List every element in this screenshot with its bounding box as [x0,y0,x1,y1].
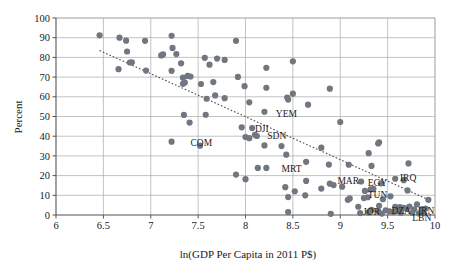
y-tick-label: 20 [40,170,51,181]
x-tick-label: 6.5 [97,220,110,231]
data-point [246,99,252,105]
data-point [278,143,284,149]
data-point [290,91,296,97]
data-point [96,32,102,38]
x-tick-label: 7.5 [192,220,205,231]
data-point [204,96,210,102]
data-point [255,165,261,171]
x-tick-label: 10 [430,220,441,231]
point-label: MRT [282,164,302,174]
data-point [263,65,269,71]
y-axis-title: Percent [12,101,24,134]
data-point [337,119,343,125]
y-tick-label: 40 [40,131,51,142]
point-label: DZA [391,206,411,216]
point-label: IRQ [400,173,417,183]
data-point [327,86,333,92]
point-labels: YEMDJISDNCOMMRTMAREGYIRQTUNJORDZAIRNLBN [191,109,435,223]
y-tick-label: 10 [40,190,51,201]
data-point [124,48,130,54]
data-point [116,35,122,41]
x-tick-label: 7 [148,220,153,231]
x-tick-label: 9.5 [381,220,394,231]
data-point [326,161,332,167]
data-point [405,160,411,166]
data-point [168,68,174,74]
data-point [142,38,148,44]
data-point [242,176,248,182]
data-point [285,209,291,215]
data-point [303,159,309,165]
data-point [392,176,398,182]
data-point [302,192,308,198]
data-point [233,172,239,178]
data-point [331,182,337,188]
data-point [263,85,269,91]
data-point [285,96,291,102]
point-label: YEM [276,109,298,119]
point-label: LBN [412,213,431,223]
data-point [143,67,149,73]
y-axis-tick-labels: 0102030405060708090100 [34,13,50,221]
data-point [328,211,334,217]
data-point [239,124,245,130]
data-point [254,133,260,139]
data-point [425,197,431,203]
data-point [283,152,289,158]
data-point [123,38,129,44]
scatter-chart: YEMDJISDNCOMMRTMAREGYIRQTUNJORDZAIRNLBN … [0,0,456,272]
y-tick-label: 50 [40,111,51,122]
data-point [214,55,220,61]
data-point [235,74,241,80]
data-point [206,62,212,68]
data-point [246,135,252,141]
x-tick-label: 8.5 [286,220,299,231]
data-point [368,163,374,169]
data-point [303,178,309,184]
data-point [181,112,187,118]
data-point [345,197,351,203]
point-label: COM [191,138,213,148]
y-tick-label: 70 [40,72,51,83]
y-tick-label: 0 [45,210,50,221]
x-tick-label: 6 [53,220,58,231]
data-point [160,51,166,57]
y-tick-label: 60 [40,91,51,102]
x-tick-label: 8 [243,220,248,231]
point-label: JOR [363,207,381,217]
y-tick-label: 90 [40,32,51,43]
data-point [290,58,296,64]
data-point [261,142,267,148]
y-tick-label: 30 [40,151,51,162]
data-point [178,60,184,66]
data-point [222,95,228,101]
y-tick-label: 100 [34,13,50,24]
data-point [285,194,291,200]
data-point [233,38,239,44]
x-axis-tick-labels: 66.577.588.599.510 [53,220,440,231]
data-point [169,45,175,51]
data-point [261,109,267,115]
chart-svg: YEMDJISDNCOMMRTMAREGYIRQTUNJORDZAIRNLBN … [0,0,456,272]
data-point [202,55,208,61]
data-point [212,92,218,98]
data-point [203,112,209,118]
point-label: SDN [267,131,286,141]
data-point [182,80,188,86]
data-point [387,193,393,199]
data-point [127,59,133,65]
data-point [241,83,247,89]
point-label: TUN [368,190,388,200]
data-point [346,162,352,168]
data-point [186,120,192,126]
data-point [375,140,381,146]
x-axis-title: ln(GDP Per Capita in 2011 P$) [180,248,317,261]
data-point [404,187,410,193]
data-point [282,184,288,190]
point-label: MAR [337,176,359,186]
data-point [187,73,193,79]
x-tick-label: 9 [338,220,343,231]
data-point [318,186,324,192]
data-point [222,57,228,63]
data-point [263,165,269,171]
